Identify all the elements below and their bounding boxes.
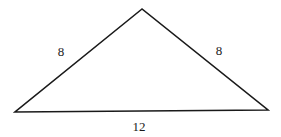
- right-side-label: 8: [216, 43, 223, 58]
- triangle-diagram: 8 8 12: [0, 0, 281, 137]
- triangle: [15, 9, 268, 112]
- base-label: 12: [133, 119, 146, 134]
- left-side-label: 8: [58, 44, 65, 59]
